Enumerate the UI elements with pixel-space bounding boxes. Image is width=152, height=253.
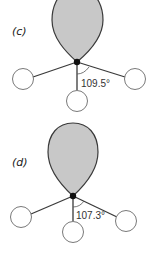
bond-left-d [31,196,73,214]
orbital-diagram: (c) 109.5° (d) 107.3° [0,0,152,253]
atom-bottom-c [67,91,88,112]
panel-c: (c) 109.5° [12,0,146,112]
angle-arc-c [77,67,89,74]
atom-left-d [11,207,32,228]
atom-left-c [13,69,34,90]
central-atom-d [70,193,76,199]
lone-pair-lobe-d [48,123,98,196]
lone-pair-lobe-c [52,0,103,62]
angle-label-c: 109.5° [81,78,110,89]
angle-label-d: 107.3° [76,210,105,221]
bond-left-c [33,62,77,77]
atom-right-c [125,69,146,90]
central-atom-c [74,59,80,65]
bond-right-c [77,62,125,77]
panel-label-c: (c) [12,25,27,38]
panel-label-d: (d) [12,156,28,169]
angle-arc-d [73,201,84,207]
atom-right-d [116,211,137,232]
panel-d: (d) 107.3° [11,123,137,243]
atom-bottom-d [63,222,84,243]
